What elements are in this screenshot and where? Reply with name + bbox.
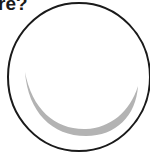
crescent-figure xyxy=(0,0,150,154)
crescent-shape xyxy=(25,72,138,136)
outline-circle xyxy=(8,3,150,151)
